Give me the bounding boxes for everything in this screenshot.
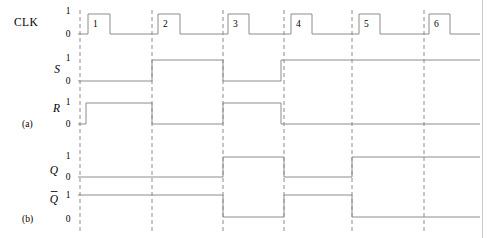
level-label-low-clk: 0 bbox=[66, 29, 71, 39]
waveform-r bbox=[78, 103, 480, 124]
signal-label-qbar: Q bbox=[50, 193, 59, 205]
level-label-high-s: 1 bbox=[66, 53, 71, 63]
signal-label-r: R bbox=[52, 102, 60, 114]
waveform-q bbox=[78, 157, 480, 177]
clock-pulse-number-1: 1 bbox=[93, 19, 98, 29]
clock-pulse-number-6: 6 bbox=[434, 19, 439, 29]
timing-diagram: 123456 CLK10S10R10Q10Q10 (a) (b) bbox=[0, 0, 493, 238]
level-label-low-q: 0 bbox=[66, 172, 71, 182]
level-label-low-qbar: 0 bbox=[66, 214, 71, 224]
level-label-low-r: 0 bbox=[66, 119, 71, 129]
clock-pulse-number-3: 3 bbox=[233, 19, 238, 29]
signal-label-clk: CLK bbox=[14, 16, 38, 28]
clock-pulse-number-5: 5 bbox=[364, 19, 369, 29]
clock-pulse-number-2: 2 bbox=[163, 19, 168, 29]
clock-pulse-number-4: 4 bbox=[296, 19, 301, 29]
level-label-high-qbar: 1 bbox=[66, 190, 71, 200]
clock-pulse-number-group: 123456 bbox=[93, 19, 439, 29]
signal-label-q: Q bbox=[50, 164, 59, 176]
signal-label-group: CLK10S10R10Q10Q10 bbox=[14, 6, 71, 224]
waveform-qbar bbox=[78, 195, 480, 217]
waveform-group bbox=[78, 14, 480, 217]
level-label-high-clk: 1 bbox=[66, 6, 71, 16]
level-label-low-s: 0 bbox=[66, 76, 71, 86]
level-label-high-r: 1 bbox=[66, 97, 71, 107]
clock-edge-markers bbox=[80, 10, 424, 231]
waveform-clk bbox=[78, 14, 480, 34]
waveform-s bbox=[78, 60, 480, 81]
group-label-a: (a) bbox=[22, 119, 33, 130]
group-label-b: (b) bbox=[22, 214, 33, 225]
timing-diagram-canvas: 123456 CLK10S10R10Q10Q10 (a) (b) bbox=[0, 0, 493, 238]
level-label-high-q: 1 bbox=[66, 151, 71, 161]
signal-label-s: S bbox=[54, 63, 60, 75]
